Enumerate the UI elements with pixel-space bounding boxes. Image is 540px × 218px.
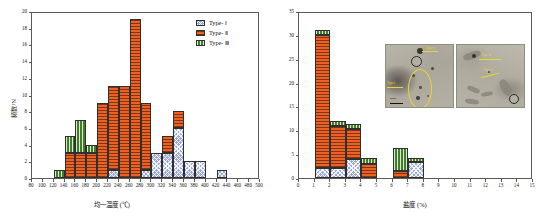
y-tick bbox=[29, 62, 32, 63]
y-tick bbox=[29, 12, 32, 13]
annotation-ellipse bbox=[408, 69, 432, 108]
y-tick bbox=[296, 12, 299, 13]
bar-segment bbox=[173, 128, 184, 178]
x-tick-label: 260 bbox=[125, 183, 133, 188]
inclusion-dot bbox=[472, 54, 476, 58]
x-tick-label: 15 bbox=[529, 183, 534, 188]
bar-280-300 bbox=[141, 103, 152, 178]
bar-segment bbox=[393, 171, 409, 178]
y-tick-label: 14 bbox=[9, 60, 27, 65]
bar-segment bbox=[184, 161, 195, 178]
x-tick-label: 460 bbox=[233, 183, 241, 188]
x-tick-label: 480 bbox=[244, 183, 252, 188]
annotation-label-type2: Type-Ⅱ bbox=[426, 47, 434, 50]
bar-420-440 bbox=[217, 170, 228, 178]
inclusion-rod bbox=[464, 98, 479, 105]
x-tick-label: 340 bbox=[168, 183, 176, 188]
legend-swatch-type1 bbox=[196, 20, 205, 26]
x-tick-label: 0 bbox=[297, 183, 300, 188]
bar-segment bbox=[330, 121, 346, 126]
y-tick-label: 10 bbox=[9, 93, 27, 98]
bar-segment bbox=[408, 158, 424, 162]
bar-6-7 bbox=[393, 148, 409, 178]
bar-120-140 bbox=[54, 170, 65, 178]
bar-segment bbox=[119, 86, 130, 178]
legend-label-type2: Type- Ⅱ bbox=[209, 29, 228, 36]
x-axis-label-temperature: 均一温度 (℃) bbox=[94, 200, 130, 209]
y-tick bbox=[29, 112, 32, 113]
y-tick bbox=[296, 155, 299, 156]
bar-3-4 bbox=[346, 124, 362, 178]
x-tick-label: 10 bbox=[451, 183, 456, 188]
bar-segment bbox=[346, 159, 362, 178]
inset-photomicrographs: Type-Ⅱ Type-Ⅰ 20μm Type-Ⅲ bbox=[385, 44, 525, 108]
bar-320-340 bbox=[162, 136, 173, 178]
y-tick bbox=[296, 107, 299, 108]
y-tick bbox=[296, 36, 299, 37]
y-tick-label: 12 bbox=[9, 76, 27, 81]
bar-380-400 bbox=[195, 161, 206, 178]
y-tick-label: 20 bbox=[276, 81, 294, 86]
y-tick bbox=[29, 129, 32, 130]
legend-temperature: Type- ⅠType- ⅡType- Ⅲ bbox=[196, 19, 229, 50]
bar-300-320 bbox=[151, 153, 162, 178]
panel-homogenization-temperature: 8010012014016018020022024026028030032034… bbox=[0, 0, 270, 218]
bar-segment bbox=[162, 153, 173, 178]
bar-160-180 bbox=[75, 120, 86, 178]
y-tick-label: 18 bbox=[9, 26, 27, 31]
x-tick-label: 9 bbox=[437, 183, 440, 188]
bar-segment bbox=[361, 164, 377, 178]
y-tick bbox=[29, 79, 32, 80]
inclusion-ring bbox=[411, 56, 422, 67]
plot-area-salinity: Type-Ⅱ Type-Ⅰ 20μm Type-Ⅲ bbox=[298, 12, 532, 179]
annotation-label-type3: Type-Ⅲ bbox=[482, 54, 491, 57]
inclusion-rod bbox=[480, 91, 493, 97]
bar-segment bbox=[141, 170, 152, 178]
bar-segment bbox=[315, 35, 331, 169]
x-axis-label-salinity: 盐度 (%) bbox=[403, 200, 426, 209]
x-tick-label: 380 bbox=[190, 183, 198, 188]
x-tick-label: 500 bbox=[255, 183, 263, 188]
x-tick-label: 80 bbox=[28, 183, 33, 188]
legend-label-type1: Type- Ⅰ bbox=[209, 19, 227, 26]
bar-segment bbox=[141, 103, 152, 170]
x-tick-label: 300 bbox=[147, 183, 155, 188]
y-tick bbox=[296, 179, 299, 180]
y-axis-label-temperature: 频数/N bbox=[9, 99, 18, 118]
bar-segment bbox=[151, 153, 162, 178]
bar-segment bbox=[86, 145, 97, 153]
bar-7-8 bbox=[408, 157, 424, 178]
scale-bar bbox=[390, 103, 403, 104]
bar-4-5 bbox=[361, 158, 377, 178]
legend-swatch-type2 bbox=[196, 30, 205, 36]
x-tick-label: 400 bbox=[201, 183, 209, 188]
y-tick-label: 35 bbox=[276, 9, 294, 14]
y-tick bbox=[29, 29, 32, 30]
bar-segment bbox=[330, 168, 346, 178]
y-tick-label: 10 bbox=[276, 129, 294, 134]
x-tick-label: 320 bbox=[157, 183, 165, 188]
bar-segment bbox=[108, 86, 119, 170]
bar-180-200 bbox=[86, 145, 97, 178]
y-tick-label: 4 bbox=[9, 143, 27, 148]
y-tick-label: 25 bbox=[276, 57, 294, 62]
bar-segment bbox=[330, 126, 346, 169]
x-tick-label: 13 bbox=[498, 183, 503, 188]
y-tick-label: 6 bbox=[9, 126, 27, 131]
bar-260-280 bbox=[130, 19, 141, 178]
bar-segment bbox=[346, 129, 362, 159]
bar-segment bbox=[361, 158, 377, 164]
bar-340-360 bbox=[173, 111, 184, 178]
y-tick-label: 20 bbox=[9, 9, 27, 14]
x-tick-label: 120 bbox=[49, 183, 57, 188]
bar-220-240 bbox=[108, 86, 119, 178]
annotation-arrow bbox=[481, 73, 499, 78]
bar-segment bbox=[408, 162, 424, 178]
figure-container: 8010012014016018020022024026028030032034… bbox=[0, 0, 540, 218]
bar-segment bbox=[75, 153, 86, 178]
y-tick-label: 15 bbox=[276, 105, 294, 110]
y-tick bbox=[29, 162, 32, 163]
annotation-label-type2: Type-Ⅱ bbox=[484, 69, 492, 72]
bar-segment bbox=[162, 136, 173, 153]
x-tick-label: 7 bbox=[406, 183, 409, 188]
